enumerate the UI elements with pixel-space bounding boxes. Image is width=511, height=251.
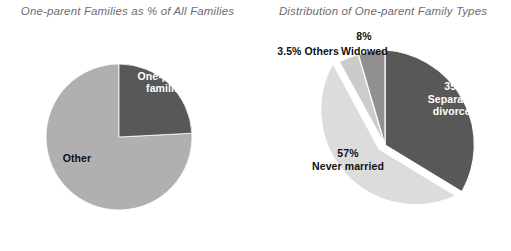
pie-label-widowed-name: Widowed — [341, 45, 388, 57]
pie-label-widowed-percent: 8% — [356, 30, 371, 42]
pie-label-widowed: Widowed — [341, 45, 405, 58]
pie-label-others-text: 3.5% Others — [277, 45, 339, 57]
pie-label-never-married-percent: 57% — [337, 147, 358, 159]
pie-label-one-parent-percent: 18% — [155, 57, 176, 69]
pie-label-one-parent-name-line1: One-parent — [137, 70, 194, 82]
left-pie-svg — [0, 0, 255, 251]
pie-label-separated-name-line2: divorced — [433, 105, 478, 117]
pie-label-other-name: Other — [63, 152, 92, 164]
pie-label-one-parent-families: 18% One-parent families — [118, 57, 214, 95]
pie-label-one-parent-name-line2: families — [146, 82, 186, 94]
right-chart-panel: Distribution of One-parent Family Types … — [255, 0, 511, 251]
pie-label-separated-percent: 35% — [444, 80, 465, 92]
pie-label-others: 3.5% Others — [253, 45, 339, 58]
pie-label-widowed-percent-wrap: 8% — [341, 30, 387, 43]
two-pie-chart-figure: One-parent Families as % of All Families… — [0, 0, 511, 251]
pie-label-never-married: 57% Never married — [283, 147, 413, 172]
left-chart-panel: One-parent Families as % of All Families… — [0, 0, 255, 251]
pie-label-never-married-name: Never married — [312, 160, 384, 172]
pie-label-separated-name-line1: Separated/ — [428, 93, 483, 105]
pie-label-separated-divorced: 35% Separated/ divorced — [405, 80, 505, 118]
pie-label-other: Other — [42, 152, 112, 165]
